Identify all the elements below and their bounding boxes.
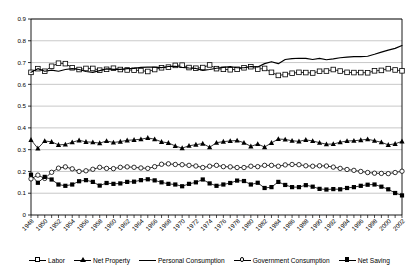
data-point-marker [345,186,349,190]
data-point-marker [290,71,295,76]
data-point-marker [262,186,266,190]
x-axis-tick-label: 1984 [268,217,283,232]
data-point-marker [36,173,40,177]
data-point-marker [207,164,211,168]
data-point-marker [358,70,363,75]
data-point-marker [104,138,109,143]
y-axis-tick-label: 0.3 [17,146,26,153]
data-point-marker [345,70,350,75]
data-point-marker [91,167,95,171]
data-point-marker [63,61,68,66]
x-axis-tick-label: 1994 [336,217,351,232]
data-point-marker [221,182,225,186]
data-point-marker [221,164,225,168]
data-point-marker [173,143,178,148]
data-point-marker [76,138,81,143]
data-point-marker [173,162,177,166]
data-point-marker [111,166,115,170]
x-axis-tick-label: 1986 [281,217,296,232]
data-point-marker [159,180,163,184]
x-axis-tick-label: 1974 [199,217,214,232]
data-point-marker [269,140,274,145]
data-point-marker [77,169,81,173]
data-point-marker [386,66,391,71]
data-point-marker [145,69,150,74]
data-point-marker [56,61,61,66]
data-point-marker [393,191,397,195]
data-point-marker [352,70,357,75]
data-point-marker [255,141,260,146]
data-point-marker [146,166,150,170]
data-point-marker [50,177,54,181]
y-axis-tick-label: 0.6 [17,81,26,88]
data-point-marker [63,165,67,169]
x-axis-tick-label: 1966 [144,217,159,232]
x-axis-tick-label: 1956 [75,217,90,232]
data-point-marker [139,166,143,170]
data-point-marker [331,187,335,191]
data-point-marker [153,178,157,182]
data-point-marker [276,136,281,141]
data-point-marker [365,170,369,174]
data-point-marker [249,164,253,168]
x-axis-tick-label: 1962 [116,217,131,232]
x-axis-tick-label: 1960 [103,217,118,232]
x-axis-tick-label: 2002 [391,217,406,232]
legend-item-labor[interactable]: Labor [29,256,65,264]
legend-label: Government Consumption [253,257,330,264]
data-point-marker [28,137,33,142]
data-point-marker [139,178,143,182]
data-point-marker [304,183,308,187]
legend-marker-filled-square-icon [339,256,356,264]
legend-item-government-consumption[interactable]: Government Consumption [234,256,330,264]
legend-marker-open-circle-icon [234,256,251,264]
data-point-marker [201,177,205,181]
y-axis-tick-label: 0.2 [17,168,26,175]
data-point-marker [180,184,184,188]
data-point-marker [393,68,398,73]
y-axis-tick-label: 0.4 [17,124,26,131]
series-labor [29,61,405,78]
data-point-marker [249,182,253,186]
data-point-marker [49,64,54,69]
data-point-marker [304,70,309,75]
legend-item-personal-consumption[interactable]: Personal Consumption [139,256,225,264]
data-point-marker [297,162,301,166]
data-point-marker [63,184,67,188]
data-point-marker [297,185,301,189]
data-point-marker [359,184,363,188]
data-point-marker [84,178,88,182]
data-point-marker [70,167,74,171]
data-point-marker [104,166,108,170]
data-point-marker [235,178,239,182]
data-point-marker [310,164,314,168]
data-point-marker [200,141,205,146]
data-point-marker [200,65,205,70]
data-point-marker [400,193,404,197]
data-point-marker [386,171,390,175]
data-point-marker [290,162,294,166]
data-point-marker [242,165,246,169]
data-point-marker [84,66,89,71]
data-point-marker [77,179,81,183]
data-point-marker [262,163,266,167]
data-point-marker [242,179,246,183]
data-point-marker [269,185,273,189]
series-net-property [28,135,404,150]
x-axis-tick-label: 1982 [254,217,269,232]
x-axis-tick-label: 1998 [364,217,379,232]
y-axis-tick-label: 0.9 [17,15,26,22]
x-axis-tick-label: 1970 [171,217,186,232]
legend-marker-open-square-icon [29,256,46,264]
data-point-marker [91,66,96,71]
x-axis-tick-label: 1964 [130,217,145,232]
legend-item-net-property[interactable]: Net Property [74,256,130,264]
data-point-marker [228,67,233,72]
legend-item-net-saving[interactable]: Net Saving [339,256,390,264]
data-point-marker [187,182,191,186]
x-axis-tick-label: 1976 [213,217,228,232]
data-point-marker [91,180,95,184]
data-point-marker [152,164,156,168]
data-point-marker [324,69,329,74]
series-net-saving [29,173,404,198]
